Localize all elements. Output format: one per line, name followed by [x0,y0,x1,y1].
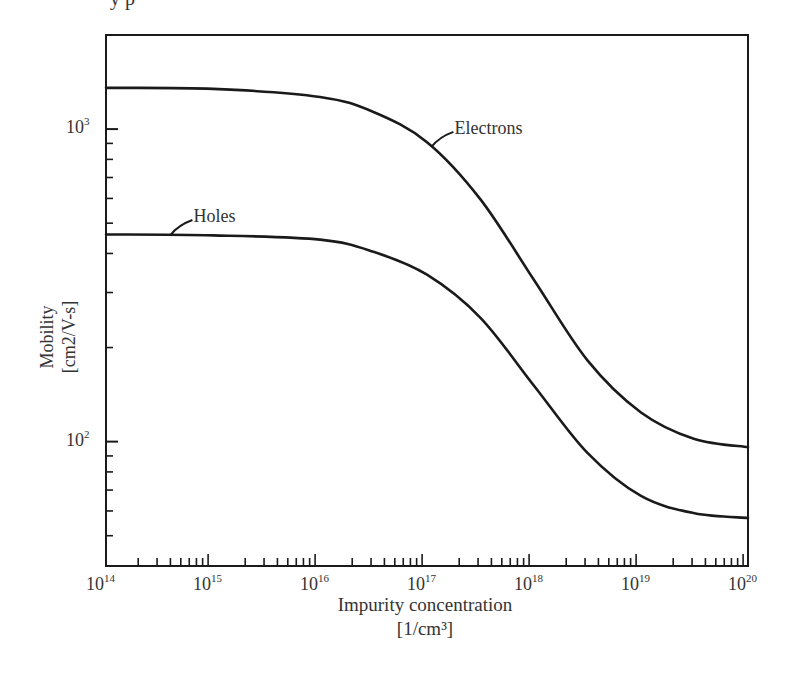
x-tick-label: 1015 [193,574,222,595]
y-axis-unit: [cm2/V-s] [58,301,80,373]
x-tick-label: 1018 [514,574,543,595]
x-axis-unit: [1/cm³] [338,617,513,641]
y-axis-title: Mobility [36,301,58,373]
series-electrons-line [106,88,748,447]
mobility-chart: y p Mobility [cm2/V-s] Impurity concentr… [0,0,798,679]
x-tick-label: 1014 [86,574,115,595]
annotation-leader-electrons [431,132,453,147]
annotation-holes: Holes [193,206,235,227]
plot-area [0,0,798,679]
x-tick-label: 1020 [728,574,757,595]
annotation-electrons: Electrons [454,118,522,139]
x-tick-label: 1017 [407,574,436,595]
plot-frame [106,35,748,566]
y-tick-label: 102 [66,430,90,451]
annotation-leader-holes [170,220,192,235]
x-tick-label: 1019 [621,574,650,595]
x-axis-title: Impurity concentration [338,593,513,617]
x-axis-label: Impurity concentration [1/cm³] [338,593,513,641]
x-tick-label: 1016 [300,574,329,595]
series-holes-line [106,234,748,517]
y-tick-label: 103 [66,117,90,138]
